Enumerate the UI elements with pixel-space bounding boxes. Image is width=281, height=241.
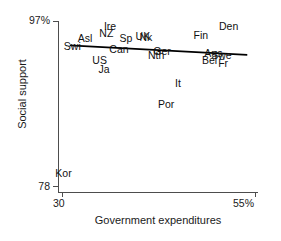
data-point-label: NZ bbox=[99, 28, 113, 39]
data-point-label: Por bbox=[158, 99, 174, 110]
y-axis-title: Social support bbox=[16, 34, 28, 154]
x-axis-line bbox=[58, 192, 258, 193]
y-axis-tick-bottom bbox=[53, 186, 58, 187]
data-point-label: Aus bbox=[204, 48, 222, 59]
data-point-label: Asl bbox=[78, 33, 93, 44]
data-point-label: Nk bbox=[139, 32, 152, 43]
y-axis-label-bottom: 78 bbox=[38, 180, 50, 192]
data-point-label: Can bbox=[109, 44, 128, 55]
x-axis-label-left: 30 bbox=[53, 197, 65, 209]
data-point-label: Bel bbox=[202, 55, 217, 66]
data-point-label: Den bbox=[219, 21, 238, 32]
data-point-label: Sp bbox=[119, 33, 132, 44]
data-point-label: UK bbox=[136, 31, 151, 42]
data-point-label: Swi bbox=[64, 41, 81, 52]
data-point-label: Ja bbox=[99, 64, 110, 75]
data-point-label: Nth bbox=[148, 50, 164, 61]
data-point-label: Fr bbox=[218, 58, 228, 69]
scatter-chart: 97% 78 30 55% Social support Government … bbox=[0, 0, 281, 241]
y-axis-tick-top bbox=[53, 21, 58, 22]
data-point-label: Fin bbox=[194, 30, 209, 41]
data-point-label: Swe bbox=[211, 50, 231, 61]
data-point-label: US bbox=[92, 55, 107, 66]
x-axis-title: Government expenditures bbox=[58, 214, 258, 226]
y-axis-label-top: 97% bbox=[29, 14, 50, 26]
y-axis-line bbox=[58, 21, 59, 193]
data-point-label: Ire bbox=[104, 21, 116, 32]
data-point-label: Ger bbox=[153, 46, 171, 57]
x-axis-label-right: 55% bbox=[233, 197, 254, 209]
x-axis-tick-right bbox=[255, 192, 256, 197]
data-point-label: It bbox=[175, 78, 181, 89]
